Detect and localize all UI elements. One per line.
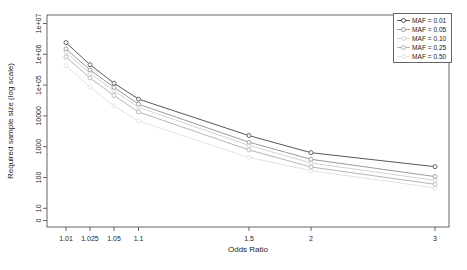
legend-label: MAF = 0.25: [412, 44, 446, 51]
data-point-marker: [88, 63, 92, 67]
data-point-marker: [137, 97, 141, 101]
legend-line-marker-icon: [397, 18, 410, 23]
data-point-marker: [433, 175, 437, 179]
x-tick-label: 1.1: [134, 235, 144, 242]
y-tick-label: 1e+07: [35, 14, 42, 34]
data-point-marker: [247, 140, 251, 144]
legend-item: MAF = 0.05: [397, 25, 451, 34]
data-point-marker: [112, 104, 116, 108]
legend-line-marker-icon: [397, 54, 410, 59]
y-tick-label: 1e+05: [35, 75, 42, 95]
data-point-marker: [137, 110, 141, 114]
data-point-marker: [88, 76, 92, 80]
data-point-marker: [112, 85, 116, 89]
x-tick-label: 3: [433, 235, 437, 242]
x-tick-label: 2: [309, 235, 313, 242]
y-tick-label: 10: [35, 204, 42, 212]
data-point-marker: [309, 157, 313, 161]
data-point-marker: [88, 68, 92, 72]
data-point-marker: [64, 55, 68, 59]
data-point-marker: [247, 155, 251, 159]
data-point-marker: [88, 85, 92, 89]
data-point-marker: [64, 41, 68, 45]
legend-item: MAF = 0.50: [397, 52, 451, 61]
series-line: [66, 52, 435, 180]
data-point-marker: [433, 182, 437, 186]
series-line: [66, 57, 435, 184]
data-point-marker: [64, 47, 68, 51]
y-axis-title: Required sample size (log scale): [6, 11, 16, 231]
legend-item: MAF = 0.10: [397, 34, 451, 43]
x-axis-title: Odds Ratio: [48, 245, 448, 254]
data-point-marker: [247, 148, 251, 152]
x-tick-label: 1.01: [59, 235, 73, 242]
plot-box: [47, 15, 449, 227]
data-point-marker: [309, 165, 313, 169]
data-point-marker: [247, 134, 251, 138]
data-point-marker: [112, 81, 116, 85]
legend-line-marker-icon: [397, 36, 410, 41]
legend-label: MAF = 0.10: [412, 35, 446, 42]
legend-line-marker-icon: [397, 27, 410, 32]
data-point-marker: [137, 119, 141, 123]
y-tick-label: 0: [35, 218, 42, 222]
legend-label: MAF = 0.50: [412, 53, 446, 60]
legend-item: MAF = 0.25: [397, 43, 451, 52]
legend-line-marker-icon: [397, 45, 410, 50]
x-tick-label: 1.025: [81, 235, 99, 242]
y-tick-label: 1e+06: [35, 44, 42, 64]
legend-label: MAF = 0.01: [412, 17, 446, 24]
data-point-marker: [309, 151, 313, 155]
x-tick-label: 1.5: [244, 235, 254, 242]
y-tick-label: 1000: [35, 139, 42, 155]
data-point-marker: [137, 102, 141, 106]
data-point-marker: [112, 93, 116, 97]
legend-item: MAF = 0.01: [397, 16, 451, 25]
figure: 0101001000100001e+051e+061e+071.011.0251…: [0, 0, 467, 270]
y-tick-label: 100: [35, 172, 42, 184]
data-point-marker: [64, 64, 68, 68]
data-point-marker: [433, 165, 437, 169]
legend: MAF = 0.01 MAF = 0.05 MAF = 0.10 MAF = 0…: [393, 13, 452, 63]
x-tick-label: 1.05: [107, 235, 121, 242]
series-line: [66, 66, 435, 188]
y-tick-label: 10000: [35, 106, 42, 126]
legend-label: MAF = 0.05: [412, 26, 446, 33]
